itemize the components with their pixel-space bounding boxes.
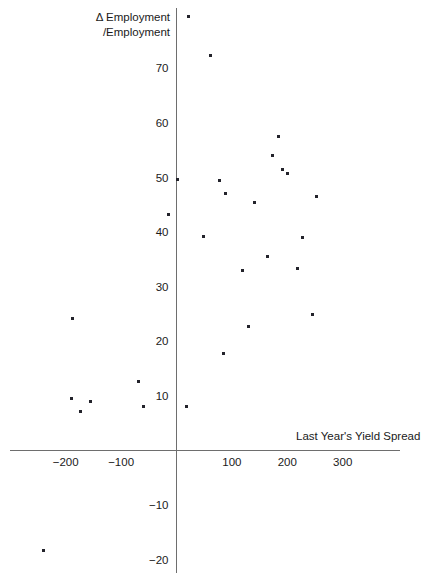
data-point [224,192,227,195]
data-point [311,313,314,316]
data-point [79,410,82,413]
data-point [241,269,244,272]
data-point [218,179,221,182]
data-point [137,380,140,383]
data-point-group [0,0,429,577]
data-point [266,255,269,258]
data-point [71,317,74,320]
data-point [202,235,205,238]
scatter-plot: Δ Employment /Employment Last Year's Yie… [0,0,429,577]
data-point [209,54,212,57]
data-point [286,172,289,175]
data-point [253,201,256,204]
data-point [142,405,145,408]
data-point [176,178,179,181]
data-point [222,352,225,355]
data-point [277,135,280,138]
data-point [187,15,190,18]
data-point [281,168,284,171]
data-point [167,213,170,216]
data-point [296,267,299,270]
data-point [185,405,188,408]
data-point [70,397,73,400]
data-point [301,236,304,239]
data-point [315,195,318,198]
data-point [89,400,92,403]
data-point [271,154,274,157]
data-point [247,325,250,328]
data-point [42,549,45,552]
